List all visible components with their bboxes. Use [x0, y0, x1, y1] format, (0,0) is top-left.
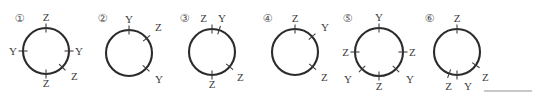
axis-label: Z	[445, 80, 452, 92]
figure-6: ⑥ZZYZ	[0, 0, 536, 103]
diagram-canvas: ①ZYYZZ②YZY③ZYZZ④ZYZ⑤YZZYYZ⑥ZZYZ	[0, 0, 536, 103]
axis-label: Z	[454, 12, 461, 24]
axis-label: Z	[482, 71, 489, 83]
figure-graphic-6: ZZYZ	[0, 0, 536, 103]
circle-outline-6	[434, 29, 480, 75]
axis-label: Y	[464, 80, 472, 92]
horizontal-rule	[484, 90, 532, 92]
